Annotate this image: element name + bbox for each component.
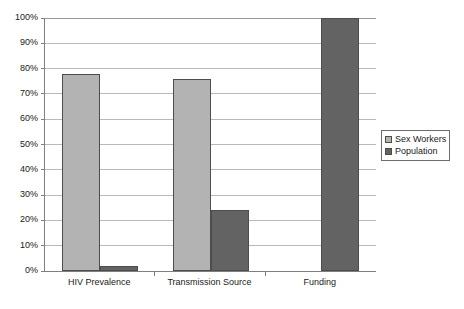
y-axis-tick-label: 90% <box>0 37 38 47</box>
y-axis-tick <box>41 43 45 44</box>
y-axis-tick-label: 60% <box>0 113 38 123</box>
x-axis-tick <box>265 272 266 276</box>
bar <box>211 210 249 271</box>
y-axis-tick <box>41 220 45 221</box>
x-axis-labels: HIV PrevalenceTransmission SourceFunding <box>44 277 375 293</box>
bar-chart: 0%10%20%30%40%50%60%70%80%90%100% HIV Pr… <box>0 0 464 309</box>
y-axis-tick <box>41 93 45 94</box>
legend-swatch-icon <box>385 148 392 155</box>
x-axis-tick <box>154 272 155 276</box>
bar <box>100 266 138 271</box>
y-axis-tick <box>41 169 45 170</box>
y-axis-tick-label: 100% <box>0 12 38 22</box>
bar <box>62 74 100 271</box>
bar <box>321 18 359 271</box>
x-axis-category-label: Transmission Source <box>167 277 251 287</box>
y-axis-tick-label: 10% <box>0 240 38 250</box>
legend-label: Sex Workers <box>395 134 446 145</box>
plot-area <box>44 18 376 272</box>
y-axis-tick <box>41 119 45 120</box>
legend-label: Population <box>395 146 438 157</box>
y-axis-tick-label: 50% <box>0 139 38 149</box>
y-axis-tick-label: 70% <box>0 88 38 98</box>
y-axis-labels: 0%10%20%30%40%50%60%70%80%90%100% <box>0 0 40 309</box>
y-axis-tick <box>41 68 45 69</box>
x-axis-category-label: HIV Prevalence <box>68 277 131 287</box>
bar <box>173 79 211 271</box>
y-axis-tick-label: 80% <box>0 63 38 73</box>
y-axis-tick-label: 30% <box>0 189 38 199</box>
y-axis-tick-label: 40% <box>0 164 38 174</box>
y-axis-tick <box>41 245 45 246</box>
y-axis-tick-label: 0% <box>0 265 38 275</box>
y-axis-tick <box>41 195 45 196</box>
y-axis-tick <box>41 18 45 19</box>
x-axis-category-label: Funding <box>304 277 337 287</box>
legend-item[interactable]: Sex Workers <box>385 133 446 145</box>
legend-item[interactable]: Population <box>385 145 446 157</box>
legend-swatch-icon <box>385 136 392 143</box>
y-axis-tick <box>41 144 45 145</box>
y-axis-tick-label: 20% <box>0 214 38 224</box>
chart-legend: Sex WorkersPopulation <box>381 130 450 161</box>
